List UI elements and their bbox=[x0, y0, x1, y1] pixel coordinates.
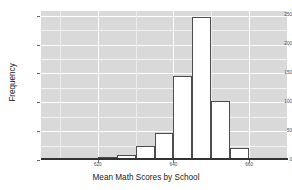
gridline-x-660 bbox=[249, 11, 250, 160]
x-axis-line bbox=[41, 158, 288, 160]
y-tick-mark bbox=[37, 160, 40, 161]
y-tick-label: 100 bbox=[258, 100, 292, 105]
x-tick-mark bbox=[249, 160, 250, 163]
plot-panel bbox=[41, 11, 287, 160]
x-tick-label: 620 bbox=[83, 163, 113, 168]
gridline-x-minor-630 bbox=[136, 11, 137, 160]
histogram-chart: 050100150200250 620640660 Mean Math Scor… bbox=[0, 0, 292, 190]
y-tick-mark bbox=[37, 73, 40, 74]
gridline-x-minor-610 bbox=[60, 11, 61, 160]
x-axis-title: Mean Math Scores by School bbox=[0, 173, 292, 182]
histogram-bar bbox=[173, 76, 192, 160]
y-tick-mark bbox=[37, 45, 40, 46]
histogram-bar bbox=[211, 101, 230, 160]
y-tick-label: 50 bbox=[258, 129, 292, 134]
x-tick-label: 640 bbox=[158, 163, 188, 168]
y-tick-label: 0 bbox=[258, 158, 292, 163]
y-axis-title: Frequency bbox=[8, 35, 17, 131]
y-tick-label: 250 bbox=[258, 13, 292, 18]
histogram-bar bbox=[155, 133, 174, 160]
y-tick-mark bbox=[37, 16, 40, 17]
y-tick-mark bbox=[37, 102, 40, 103]
x-tick-mark bbox=[173, 160, 174, 163]
gridline-x-620 bbox=[98, 11, 99, 160]
y-tick-label: 200 bbox=[258, 42, 292, 47]
histogram-bar bbox=[192, 17, 211, 160]
y-tick-mark bbox=[37, 131, 40, 132]
y-tick-label: 150 bbox=[258, 71, 292, 76]
x-tick-label: 660 bbox=[234, 163, 264, 168]
x-tick-mark bbox=[98, 160, 99, 163]
